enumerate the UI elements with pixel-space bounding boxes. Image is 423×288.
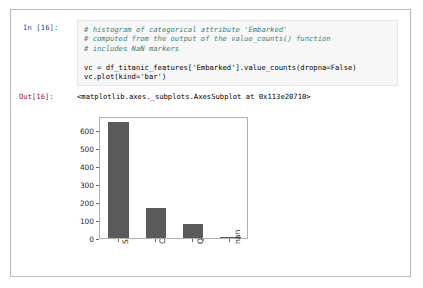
y-axis-tick-mark <box>96 131 99 132</box>
y-axis-tick-mark <box>96 167 99 168</box>
x-axis-tick-mark <box>229 239 230 242</box>
code-line-comment-3: # includes NaN markers <box>84 44 392 53</box>
y-axis-tick-label: 500 <box>62 145 94 154</box>
y-axis-tick-mark <box>96 221 99 222</box>
y-axis-tick-mark <box>96 203 99 204</box>
notebook-cell-frame: In [16]: # histogram of categorical attr… <box>10 9 411 277</box>
x-axis-tick-label: Q <box>196 238 205 244</box>
y-axis-tick-label: 0 <box>62 235 94 244</box>
input-prompt-label: In [16]: <box>23 23 75 32</box>
x-axis-tick-label: S <box>121 239 130 244</box>
code-line-comment-1: # histogram of categorical attribute 'Em… <box>84 25 392 34</box>
y-axis-tick-label: 600 <box>62 127 94 136</box>
output-repr-text: <matplotlib.axes._subplots.AxesSubplot a… <box>77 92 311 101</box>
x-axis-tick-mark <box>155 239 156 242</box>
code-line-blank <box>84 53 392 62</box>
x-axis-tick-label: C <box>158 239 167 244</box>
y-axis-tick-mark <box>96 149 99 150</box>
input-cell: In [16]: # histogram of categorical attr… <box>11 20 410 86</box>
bar-S <box>108 122 128 238</box>
y-axis-tick-label: 400 <box>62 163 94 172</box>
bar-C <box>146 208 166 238</box>
matplotlib-figure: 0100200300400500600SCQnan <box>63 107 263 275</box>
y-axis-tick-label: 100 <box>62 217 94 226</box>
y-axis-tick-mark <box>96 185 99 186</box>
code-editor[interactable]: # histogram of categorical attribute 'Em… <box>77 20 398 86</box>
code-line-statement-2: vc.plot(kind='bar') <box>84 72 392 81</box>
y-axis-tick-label: 200 <box>62 199 94 208</box>
code-line-comment-2: # computed from the output of the value_… <box>84 34 392 43</box>
x-axis-tick-mark <box>118 239 119 242</box>
bar-Q <box>183 224 203 238</box>
plot-axes <box>99 117 248 239</box>
y-axis-tick-mark <box>96 239 99 240</box>
x-axis-tick-mark <box>192 239 193 242</box>
x-axis-tick-label: nan <box>233 230 242 244</box>
y-axis-tick-label: 300 <box>62 181 94 190</box>
output-prompt-label: Out[16]: <box>19 92 54 101</box>
code-line-statement-1: vc = df_titanic_features['Embarked'].val… <box>84 63 392 72</box>
